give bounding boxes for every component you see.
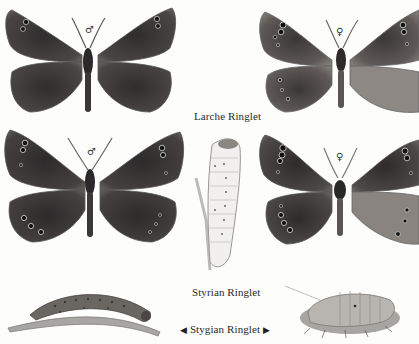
butterfly-styrian-female [250, 120, 419, 250]
pupa-stygian [270, 270, 419, 344]
species-label-stygian-text: Stygian Ringlet [190, 323, 260, 335]
arrow-left-icon: ◀ [180, 325, 187, 335]
female-symbol: ♀ [336, 26, 343, 37]
illustration-plate: ♂ ♀ La [0, 0, 419, 344]
larva-stygian [0, 270, 180, 344]
arrow-right-icon: ▶ [263, 325, 270, 335]
male-symbol: ♂ [87, 146, 96, 157]
butterfly-styrian-male [0, 120, 190, 250]
species-label-styrian: Styrian Ringlet [192, 286, 260, 298]
butterfly-larche-male [0, 0, 180, 120]
butterfly-larche-female [250, 0, 419, 120]
female-symbol: ♀ [336, 151, 343, 162]
male-symbol: ♂ [85, 24, 94, 35]
species-label-stygian: ◀ Stygian Ringlet ▶ [180, 323, 270, 335]
larva-styrian [180, 130, 260, 280]
